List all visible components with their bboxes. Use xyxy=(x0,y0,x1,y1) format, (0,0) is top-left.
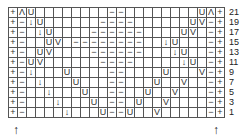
chart-cell: ↓ xyxy=(27,18,36,28)
chart-cell: U xyxy=(27,8,36,18)
chart-cell xyxy=(135,8,144,18)
chart-cell: − xyxy=(207,58,216,68)
chart-cell: U xyxy=(27,58,36,68)
chart-cell xyxy=(72,8,81,18)
chart-cell: + xyxy=(9,28,18,38)
chart-cell: − xyxy=(108,78,117,88)
chart-cell xyxy=(144,58,153,68)
chart-row: +−↓U−−−−UV−+ xyxy=(9,18,225,28)
chart-cell: ↓ xyxy=(171,48,180,58)
chart-cell: − xyxy=(117,78,126,88)
chart-cell: − xyxy=(90,48,99,58)
chart-cell xyxy=(135,18,144,28)
chart-cell: Λ xyxy=(18,8,27,18)
chart-cell: U xyxy=(36,18,45,28)
chart-cell xyxy=(126,78,135,88)
chart-cell xyxy=(99,88,108,98)
chart-cell xyxy=(36,38,45,48)
chart-row: +ΛU−−UΛ+ xyxy=(9,8,225,18)
chart-cell: + xyxy=(9,88,18,98)
chart-cell xyxy=(72,98,81,108)
chart-cell: ↓ xyxy=(36,78,45,88)
chart-row: +−↓U−−UV−+ xyxy=(9,68,225,78)
chart-cell xyxy=(144,48,153,58)
chart-cell: V xyxy=(162,98,171,108)
chart-cell xyxy=(36,68,45,78)
chart-cell: U xyxy=(189,18,198,28)
chart-cell xyxy=(99,78,108,88)
chart-cell xyxy=(90,78,99,88)
chart-cell: U xyxy=(36,48,45,58)
chart-cell xyxy=(144,98,153,108)
chart-cell xyxy=(171,98,180,108)
chart-cell: + xyxy=(9,18,18,28)
chart-row: +−↓U−−UV−+ xyxy=(9,78,225,88)
chart-cell xyxy=(27,48,36,58)
chart-cell: − xyxy=(117,18,126,28)
chart-cell: − xyxy=(72,38,81,48)
chart-cell xyxy=(198,108,207,118)
knitting-chart-grid: +ΛU−−UΛ++−↓U−−−−UV−++−↓U−−−−−−UV−++−UV−−… xyxy=(8,7,225,118)
chart-cell xyxy=(90,108,99,118)
chart-cell xyxy=(90,18,99,28)
chart-cell xyxy=(72,28,81,38)
chart-cell xyxy=(153,58,162,68)
chart-cell: − xyxy=(18,88,27,98)
chart-cell xyxy=(189,8,198,18)
chart-cell xyxy=(72,108,81,118)
chart-cell xyxy=(135,78,144,88)
chart-cell: − xyxy=(126,18,135,28)
chart-cell: − xyxy=(18,68,27,78)
chart-cell: − xyxy=(207,108,216,118)
chart-row: +−↓U−−−−−−UV−+ xyxy=(9,28,225,38)
chart-cell: U xyxy=(189,58,198,68)
chart-row: +−↓U−−UV−+ xyxy=(9,98,225,108)
chart-cell: − xyxy=(135,38,144,48)
row-number: 17 xyxy=(229,27,239,37)
chart-cell xyxy=(162,88,171,98)
chart-cell: − xyxy=(117,58,126,68)
chart-cell: + xyxy=(216,18,225,28)
chart-cell: U xyxy=(198,8,207,18)
chart-cell xyxy=(198,78,207,88)
chart-cell xyxy=(189,108,198,118)
chart-cell: − xyxy=(135,48,144,58)
chart-cell: + xyxy=(216,88,225,98)
chart-cell: V xyxy=(45,48,54,58)
chart-cell xyxy=(153,98,162,108)
chart-cell xyxy=(54,108,63,118)
chart-cell xyxy=(27,98,36,108)
chart-cell xyxy=(54,58,63,68)
chart-cell: − xyxy=(117,8,126,18)
chart-cell xyxy=(135,88,144,98)
chart-cell xyxy=(72,68,81,78)
chart-cell xyxy=(27,38,36,48)
chart-cell: + xyxy=(9,8,18,18)
chart-cell: U xyxy=(99,108,108,118)
chart-cell: ↓ xyxy=(162,38,171,48)
chart-cell xyxy=(36,88,45,98)
chart-cell: U xyxy=(153,78,162,88)
chart-cell xyxy=(63,8,72,18)
chart-cell: − xyxy=(108,18,117,28)
chart-cell: V xyxy=(189,28,198,38)
chart-cell xyxy=(81,48,90,58)
chart-row: +−UV−−−−↓U−+ xyxy=(9,58,225,68)
chart-cell: − xyxy=(99,28,108,38)
chart-cell xyxy=(144,18,153,28)
chart-cell xyxy=(198,58,207,68)
row-number: 3 xyxy=(229,97,234,107)
chart-cell: − xyxy=(108,108,117,118)
chart-cell xyxy=(90,58,99,68)
chart-cell: + xyxy=(216,38,225,48)
chart-cell xyxy=(171,78,180,88)
row-number: 9 xyxy=(229,67,234,77)
chart-cell xyxy=(72,48,81,58)
chart-cell: V xyxy=(198,68,207,78)
chart-cell: − xyxy=(18,98,27,108)
chart-cell xyxy=(54,68,63,78)
chart-cell xyxy=(63,18,72,28)
chart-cell xyxy=(45,68,54,78)
chart-cell: V xyxy=(36,58,45,68)
row-number: 1 xyxy=(229,107,234,117)
